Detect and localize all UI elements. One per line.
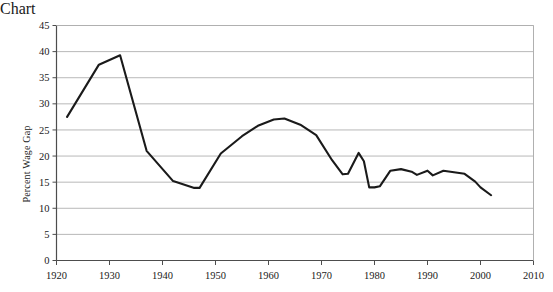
y-tick-label-20: 20 (39, 151, 50, 162)
y-tick-label-0: 0 (44, 255, 49, 266)
x-tick-label-1980: 1980 (364, 270, 385, 281)
y-tick-label-5: 5 (44, 229, 49, 240)
x-tick-labels-group: 1920193019401950196019701980199020002010 (46, 270, 544, 281)
gridlines-group (57, 26, 534, 261)
chart-figure: Percent Wage Gap 051015202530354045 1920… (0, 18, 553, 292)
y-tick-label-40: 40 (39, 46, 50, 57)
data-series-line (67, 55, 491, 195)
plot-frame (57, 26, 534, 261)
x-tick-label-1920: 1920 (46, 270, 67, 281)
y-tick-label-15: 15 (39, 177, 50, 188)
x-tick-label-1970: 1970 (311, 270, 332, 281)
y-tick-labels-group: 051015202530354045 (39, 20, 50, 266)
y-tick-label-10: 10 (39, 203, 50, 214)
x-tick-label-1930: 1930 (99, 270, 120, 281)
x-tick-label-2010: 2010 (523, 270, 544, 281)
x-tick-label-1960: 1960 (258, 270, 279, 281)
x-tick-marks-group (57, 261, 534, 266)
line-chart-svg: 051015202530354045 192019301940195019601… (0, 18, 553, 292)
y-tick-label-30: 30 (39, 98, 50, 109)
y-tick-label-25: 25 (39, 125, 50, 136)
y-tick-label-35: 35 (39, 72, 50, 83)
plot-area-container: 051015202530354045 192019301940195019601… (0, 18, 553, 292)
y-tick-label-45: 45 (39, 20, 50, 31)
x-tick-label-2000: 2000 (470, 270, 491, 281)
x-tick-label-1990: 1990 (417, 270, 438, 281)
x-tick-label-1950: 1950 (205, 270, 226, 281)
x-tick-label-1940: 1940 (152, 270, 173, 281)
